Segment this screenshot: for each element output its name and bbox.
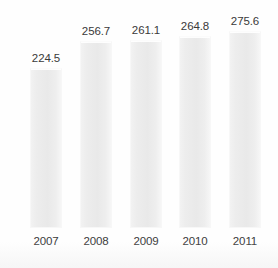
bar-value-label: 264.8	[181, 20, 209, 32]
bar-group-2008[interactable]: 256.7 2008	[80, 41, 112, 228]
bar-group-2010[interactable]: 264.8 2010	[179, 36, 211, 228]
bar[interactable]	[229, 31, 261, 228]
bar-group-2011[interactable]: 275.6 2011	[229, 31, 261, 228]
plot-area: 224.5 2007 256.7 2008 261.1 2009 264.8 2…	[0, 0, 278, 268]
bar-value-label: 224.5	[32, 52, 60, 64]
bar-category-label: 2010	[182, 235, 207, 247]
bar-value-label: 261.1	[132, 24, 160, 36]
bar-category-label: 2008	[83, 235, 108, 247]
bar-category-label: 2011	[233, 235, 257, 247]
bar-value-label: 256.7	[82, 25, 110, 37]
bar-value-label: 275.6	[231, 15, 259, 27]
bar-category-label: 2009	[133, 235, 158, 247]
bar-chart: 224.5 2007 256.7 2008 261.1 2009 264.8 2…	[0, 0, 278, 268]
bar-category-label: 2007	[33, 235, 58, 247]
bar[interactable]	[80, 41, 112, 228]
bar[interactable]	[179, 36, 211, 228]
bar[interactable]	[30, 68, 62, 228]
bar-group-2007[interactable]: 224.5 2007	[30, 68, 62, 228]
bar[interactable]	[130, 40, 162, 228]
bar-group-2009[interactable]: 261.1 2009	[130, 40, 162, 228]
